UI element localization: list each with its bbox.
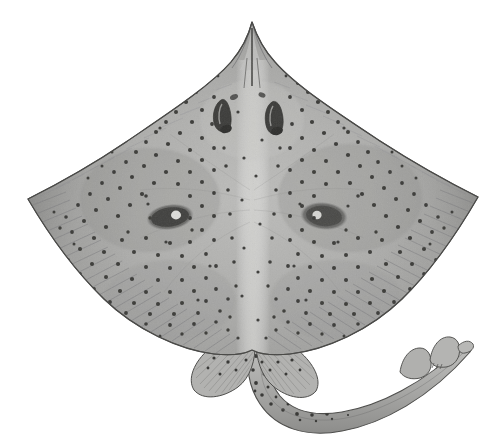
illustration-plate: Thorny skate dorsal view, whole animal s… [0,0,499,446]
skate-illustration: Thorny skate dorsal view, whole animal [0,0,499,446]
